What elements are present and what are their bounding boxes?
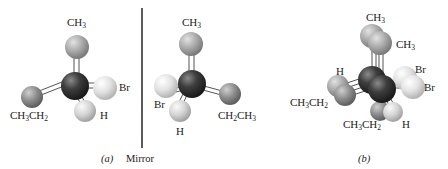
carbon-atom-front: [368, 75, 396, 103]
caption-b: (b): [358, 153, 370, 164]
label-bromine-right: Br: [154, 99, 165, 110]
ethyl-atom: [219, 83, 241, 105]
label-hydrogen-right: H: [176, 126, 184, 137]
methyl-atom-front: [368, 31, 392, 55]
label-methyl-left: CH3: [67, 17, 86, 28]
caption-a: (a): [101, 153, 113, 164]
label-hydrogen-left: H: [100, 110, 108, 121]
ethyl-atom: [21, 86, 43, 108]
hydrogen-atom: [74, 100, 96, 122]
bromine-atom: [154, 74, 178, 98]
label-bromine-front: Br: [424, 82, 435, 93]
label-ethyl-left: CH3CH2: [10, 110, 48, 121]
label-bromine-back: Br: [415, 64, 426, 75]
label-hydrogen-b: H: [336, 66, 344, 77]
methyl-atom: [65, 35, 89, 59]
molecule-figure: CH3 Br CH3CH2 H CH3 Br H CH2CH3 (a) Mirr…: [0, 0, 448, 169]
methyl-atom: [179, 32, 203, 56]
carbon-atom: [178, 70, 206, 98]
bromine-atom-front: [401, 75, 425, 99]
hydrogen-atom-front: [383, 102, 403, 122]
bromine-atom: [93, 76, 117, 100]
carbon-atom: [61, 72, 89, 100]
label-methyl-front: CH3: [396, 39, 415, 50]
label-methyl-back: CH3: [366, 12, 385, 23]
hydrogen-atom: [169, 100, 191, 122]
label-hydrogen-bottom-b: H: [402, 119, 410, 130]
label-methyl-right: CH3: [182, 17, 201, 28]
mirror-label: Mirror: [126, 153, 154, 164]
label-ethyl-right: CH2CH3: [218, 110, 256, 121]
label-bromine-left: Br: [119, 82, 130, 93]
label-ethyl-left-b: CH3CH2: [290, 97, 328, 108]
label-ethyl-bottom-b: CH3CH2: [343, 119, 381, 130]
ethyl-atom-front: [334, 84, 356, 106]
